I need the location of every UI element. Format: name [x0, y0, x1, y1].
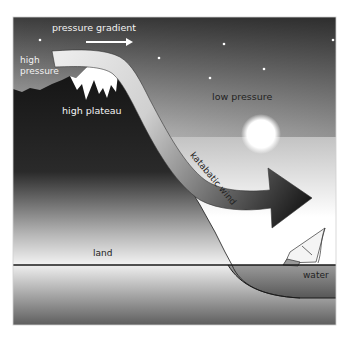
pressure-gradient-label: pressure gradient [52, 23, 136, 33]
high-pressure-label-line2: pressure [20, 66, 59, 76]
high-pressure-label-line1: high [20, 55, 40, 65]
land-label: land [93, 248, 112, 258]
diagram-canvas [0, 0, 350, 340]
high-plateau-label: high plateau [62, 106, 122, 116]
katabatic-wind-diagram: pressure gradient high pressure high pla… [0, 0, 350, 340]
low-pressure-label: low pressure [212, 92, 272, 102]
moon-icon [241, 114, 281, 154]
water-label: water [303, 270, 329, 280]
